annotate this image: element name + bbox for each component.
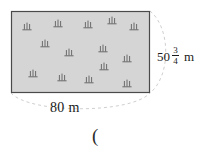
height-fraction: 3 4 (172, 46, 179, 66)
width-dimension-label: 80 m (50, 101, 80, 115)
fraction-numerator: 3 (172, 46, 179, 55)
height-whole-number: 50 (157, 50, 170, 63)
plot-rectangle (12, 12, 150, 93)
dimension-arc-bottom (11, 93, 150, 109)
diagram-canvas: 80 m 50 3 4 m ( (0, 0, 214, 156)
fraction-denominator: 4 (172, 57, 179, 66)
height-dimension-label: 50 3 4 m (157, 46, 194, 66)
stray-paren-glyph: ( (92, 126, 98, 145)
figure-svg (0, 0, 214, 156)
height-unit: m (184, 50, 194, 63)
